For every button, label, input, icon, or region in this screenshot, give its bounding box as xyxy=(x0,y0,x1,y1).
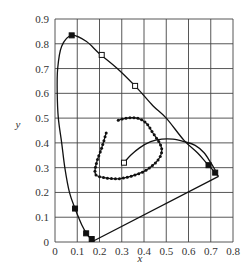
loop-dot xyxy=(105,131,108,134)
curves xyxy=(57,35,218,241)
loop-dot xyxy=(93,170,96,173)
loop-dot xyxy=(97,154,100,157)
loop-dot xyxy=(126,176,129,179)
planckian-curve-line xyxy=(124,139,215,170)
open-square-marker xyxy=(133,83,138,88)
loop-dot xyxy=(150,130,153,133)
open-square-marker xyxy=(99,52,104,57)
loop-dot xyxy=(117,119,120,122)
y-tick-label: 0.6 xyxy=(35,87,49,99)
y-tick-label: 0.9 xyxy=(35,13,49,25)
loop-dot xyxy=(106,177,109,180)
x-tick-label: 0.2 xyxy=(93,245,107,257)
markers xyxy=(69,33,218,242)
open-square-marker xyxy=(121,160,126,165)
loop-dot xyxy=(159,155,162,158)
x-tick-label: 0.3 xyxy=(115,245,129,257)
loop-dot xyxy=(95,173,98,176)
loop-dot xyxy=(154,161,157,164)
x-tick-label: 0.6 xyxy=(182,245,196,257)
loop-dot xyxy=(114,177,117,180)
filled-square-marker xyxy=(73,206,78,211)
filled-square-marker xyxy=(213,170,218,175)
y-axis-label: y xyxy=(15,118,21,130)
loop-dot xyxy=(140,118,143,121)
loop-dot xyxy=(141,171,144,174)
loop-dot xyxy=(148,167,151,170)
filled-square-marker xyxy=(206,163,211,168)
loop-dot xyxy=(160,151,163,154)
filled-square-marker xyxy=(89,237,94,242)
loop-dot xyxy=(128,116,131,119)
y-tick-label: 0.8 xyxy=(35,38,49,50)
loop-dot xyxy=(124,117,127,120)
loop-dot xyxy=(122,177,125,180)
tick-labels: 00.10.20.30.40.50.60.70.800.10.20.30.40.… xyxy=(35,13,240,257)
loop-dot xyxy=(98,175,101,178)
y-tick-label: 0.1 xyxy=(35,211,49,223)
x-tick-label: 0.5 xyxy=(159,245,173,257)
loop-dot xyxy=(143,120,146,123)
loop-dot xyxy=(133,174,136,177)
x-tick-label: 0.1 xyxy=(70,245,84,257)
loop-dot xyxy=(151,164,154,167)
y-tick-label: 0.3 xyxy=(35,162,49,174)
loop-dot xyxy=(110,177,113,180)
loop-dot xyxy=(159,144,162,147)
purple-line-line xyxy=(94,176,219,240)
x-tick-label: 0 xyxy=(52,245,58,257)
loop-dot xyxy=(104,135,107,138)
x-tick-label: 0.7 xyxy=(204,245,218,257)
loop-dot xyxy=(157,158,160,161)
loop-dot xyxy=(146,123,149,126)
loop-dot xyxy=(136,117,139,120)
y-tick-label: 0.5 xyxy=(35,112,49,124)
spectral-locus-line xyxy=(57,35,218,241)
y-tick-label: 0 xyxy=(44,236,50,248)
loop-dot xyxy=(102,139,105,142)
loop-dot xyxy=(121,118,124,121)
loop-dot xyxy=(101,143,104,146)
loop-dot xyxy=(102,176,105,179)
filled-square-marker xyxy=(84,231,89,236)
loop-dot xyxy=(118,177,121,180)
loop-dot xyxy=(130,175,133,178)
y-tick-label: 0.7 xyxy=(35,63,49,75)
grid xyxy=(55,19,233,242)
loop-dot xyxy=(153,133,156,136)
loop-dot xyxy=(132,116,135,119)
loop-dot xyxy=(144,169,147,172)
chromaticity-chart: 00.10.20.30.40.50.60.70.800.10.20.30.40.… xyxy=(0,0,252,275)
y-tick-label: 0.2 xyxy=(35,186,49,198)
loop-dot xyxy=(160,147,163,150)
y-tick-label: 0.4 xyxy=(35,137,49,149)
loop-dot xyxy=(99,151,102,154)
dotted-loop-line xyxy=(95,118,162,179)
x-axis-label: x xyxy=(137,252,143,264)
loop-dot xyxy=(95,162,98,165)
loop-dot xyxy=(137,172,140,175)
loop-dot xyxy=(100,147,103,150)
filled-square-marker xyxy=(69,33,74,38)
loop-dot xyxy=(94,166,97,169)
loop-dot xyxy=(148,127,151,130)
loop-dot xyxy=(96,158,99,161)
x-tick-label: 0.8 xyxy=(226,245,240,257)
